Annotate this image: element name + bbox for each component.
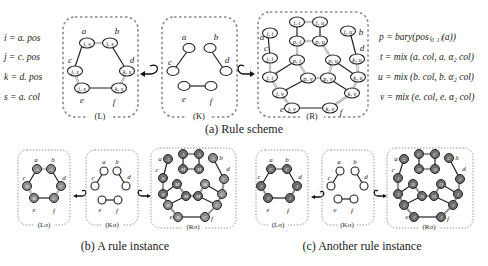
Lsigma-c-node: C <box>267 165 276 174</box>
node-R-low-1: p, v <box>301 73 316 83</box>
Rsigma-b-node: M <box>195 165 204 174</box>
svg-text:f: f <box>116 207 119 215</box>
node-R-low-4: k, v <box>345 88 360 98</box>
Rsigma-c-node: J <box>400 201 409 210</box>
svg-text:k, v: k, v <box>325 105 334 112</box>
graph-L-label: (L) <box>95 111 106 121</box>
svg-text:O: O <box>433 167 437 172</box>
graph-Lsigma-label: (Lσ) <box>38 221 51 229</box>
graph-R: i, t i, t i, u i, u j, t k, u p, t p, u … <box>258 12 368 121</box>
svg-text:d: d <box>127 173 131 181</box>
svg-text:c: c <box>257 173 261 181</box>
definitions: i = a. pos j = c. pos k = d. pos s = a. … <box>2 33 42 102</box>
Lsigma-b-node-c: B <box>23 182 32 191</box>
svg-text:d: d <box>364 173 368 181</box>
caption-c: (c) Another rule instance <box>303 239 422 253</box>
svg-text:b: b <box>214 32 219 42</box>
Lsigma-c-node: J <box>286 194 295 203</box>
node-c: j, s <box>68 66 83 76</box>
svg-text:d: d <box>226 165 230 173</box>
arrowhead-icon <box>140 71 145 77</box>
Rsigma-b-node: A <box>164 155 173 164</box>
equation-u: u = mix (b. col, b. α₂ col) <box>378 72 474 83</box>
node-R-b: i, u <box>341 26 356 36</box>
Rsigma-c-node: O <box>418 192 427 201</box>
svg-text:B: B <box>176 215 179 220</box>
node-a <box>183 44 195 53</box>
svg-text:e: e <box>98 206 101 214</box>
svg-text:i, s: i, s <box>106 40 114 47</box>
Rsigma-b-node: C <box>213 201 222 210</box>
arrowhead-icon <box>147 194 151 198</box>
Rsigma-c-node: O <box>437 180 446 189</box>
Rsigma-b-node: B <box>174 213 183 222</box>
svg-text:j, t: j, t <box>266 74 274 81</box>
svg-text:i, t: i, t <box>294 19 301 26</box>
arrow-K-to-R <box>238 65 252 74</box>
svg-text:j, s: j, s <box>70 68 79 75</box>
svg-text:a: a <box>182 32 187 42</box>
svg-text:e: e <box>169 213 172 221</box>
Lsigma-b-node-a: A <box>33 165 42 174</box>
node-R-a: i, t <box>263 28 278 38</box>
Rsigma-b-node: A <box>179 150 188 159</box>
svg-text:j, t: j, t <box>266 55 274 62</box>
svg-text:M: M <box>174 182 180 187</box>
Rsigma-b-node: A <box>195 150 204 159</box>
node-R-e: j, v <box>285 103 300 113</box>
node-c <box>167 67 179 76</box>
svg-text:k, v: k, v <box>347 90 356 97</box>
node-d <box>220 67 232 76</box>
svg-text:f: f <box>340 107 344 117</box>
node-R-right-2: k, u <box>351 72 366 82</box>
Rsigma-b-node: B <box>164 201 173 210</box>
svg-text:j, v: j, v <box>275 90 284 97</box>
Lsigma-b-node-e: B <box>30 194 39 203</box>
svg-text:k, s: k, s <box>123 68 132 75</box>
graph-K-label: (K) <box>193 111 205 121</box>
Rsigma-c-node: O <box>415 165 424 174</box>
node-R-mid-3: p, t <box>290 55 305 65</box>
svg-text:i, u: i, u <box>316 19 325 26</box>
definition-s: s = a. col <box>4 92 40 102</box>
svg-text:b: b <box>219 154 223 162</box>
node-R-f: k, v <box>323 103 338 113</box>
node-f <box>205 82 217 91</box>
svg-text:e: e <box>280 104 284 114</box>
Rsigma-c-node: J <box>456 175 465 184</box>
svg-text:a: a <box>394 155 398 163</box>
svg-text:e: e <box>405 213 408 221</box>
caption-b: (b) A rule instance <box>81 239 169 253</box>
svg-text:j, s: j, s <box>77 85 86 92</box>
graph-L: i, s i, s j, s k, s j, s k, s a b c d e … <box>63 17 138 121</box>
Rsigma-c-node: C <box>431 150 440 159</box>
svg-text:b: b <box>455 154 459 162</box>
Lsigma-b-node-f: C <box>50 194 59 203</box>
equation-v: v = mix (e. col, e. α₂ col) <box>380 92 474 103</box>
node-e <box>178 82 190 91</box>
arrow-Ksigma-to-Rsigma <box>138 190 148 196</box>
Rsigma-c-node: C <box>445 154 454 163</box>
svg-text:a: a <box>269 156 273 164</box>
Rsigma-c-node: C <box>415 150 424 159</box>
node-e: j, s <box>75 83 90 93</box>
Rsigma-c-node: J <box>449 201 458 210</box>
svg-text:d: d <box>62 174 66 182</box>
node-b: i, s <box>103 38 118 48</box>
arrowhead-icon <box>73 194 77 198</box>
svg-text:p, u: p, u <box>327 57 339 64</box>
svg-text:i, s: i, s <box>83 40 91 47</box>
svg-text:c: c <box>168 57 172 67</box>
Lsigma-b-node-b: A <box>47 165 56 174</box>
graph-Ksigma-label: (Kσ) <box>340 221 354 229</box>
svg-text:B: B <box>161 192 164 197</box>
svg-text:b: b <box>285 156 289 164</box>
Lsigma-b-node-d: C <box>57 182 66 191</box>
svg-text:b: b <box>115 158 119 166</box>
node-R-top-2: i, u <box>313 17 328 27</box>
Rsigma-c-node: J <box>454 190 463 199</box>
Lsigma-c-node: J <box>293 182 302 191</box>
svg-text:e: e <box>266 206 269 214</box>
node-R-mid-4: p, u <box>326 55 341 65</box>
Lsigma-c-node: J <box>257 182 266 191</box>
